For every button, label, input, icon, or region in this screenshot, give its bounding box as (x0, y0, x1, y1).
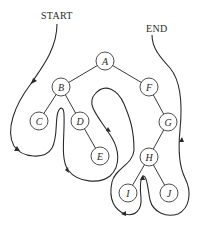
svg-text:F: F (145, 82, 153, 93)
arrow-icon (106, 127, 111, 132)
svg-text:B: B (58, 82, 64, 93)
svg-text:E: E (96, 151, 103, 162)
node-h: H (140, 148, 158, 166)
end-label: END (146, 23, 167, 34)
svg-text:H: H (144, 152, 153, 163)
node-f: F (140, 78, 158, 96)
node-i: I (119, 184, 137, 202)
svg-text:C: C (36, 116, 43, 127)
node-c: C (30, 112, 48, 130)
node-b: B (52, 78, 70, 96)
node-g: G (159, 113, 177, 131)
arrow-icon (31, 78, 37, 84)
svg-text:D: D (75, 116, 84, 127)
svg-text:A: A (101, 56, 109, 67)
arrow-icon (121, 211, 126, 216)
start-label: START (41, 10, 73, 21)
tree-traversal-diagram: START END A B C D (0, 0, 204, 228)
node-e: E (91, 147, 109, 165)
svg-text:G: G (164, 117, 171, 128)
svg-text:J: J (167, 188, 172, 199)
node-d: D (71, 112, 89, 130)
node-j: J (160, 184, 178, 202)
svg-text:I: I (125, 188, 130, 199)
node-a: A (96, 52, 114, 70)
